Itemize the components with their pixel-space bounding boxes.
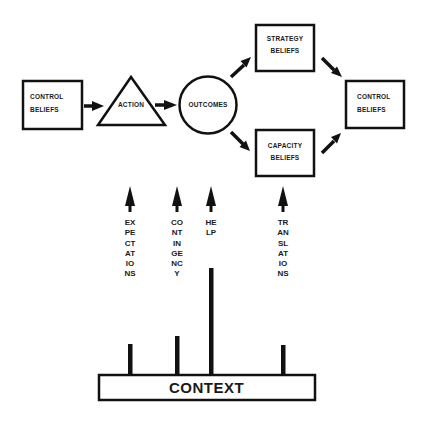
arrow-contingency (172, 186, 182, 375)
outcomes-label: OUTCOMES (182, 99, 234, 111)
arrow-action-to-outcomes (155, 100, 177, 110)
diagram-canvas: CONTROL BELIEFS ACTION OUTCOMES STRATEGY… (0, 0, 425, 422)
arrow-expectations (125, 186, 135, 375)
arrow-translations (278, 186, 288, 375)
arrow-control-to-action (84, 101, 104, 111)
control-beliefs-right-line1: CONTROL (357, 91, 391, 103)
contingency-label: CONTINGENCY (171, 218, 183, 280)
capacity-beliefs-line1: CAPACITY (256, 140, 314, 152)
diagram-shapes (0, 0, 425, 422)
context-label: CONTEXT (98, 374, 315, 400)
help-label: HELP (205, 218, 217, 239)
action-label: ACTION (110, 99, 152, 111)
control-beliefs-left-line2: BELIEFS (30, 104, 59, 116)
translations-label: TRANSLATIONS (277, 218, 289, 280)
strategy-beliefs-line1: STRATEGY (256, 33, 314, 45)
arrow-help (206, 186, 216, 375)
capacity-beliefs-line2: BELIEFS (256, 152, 314, 164)
control-beliefs-right-line2: BELIEFS (357, 104, 386, 116)
control-beliefs-left-line1: CONTROL (30, 91, 64, 103)
arrow-capacity-to-control (322, 133, 341, 153)
strategy-beliefs-line2: BELIEFS (256, 45, 314, 57)
expectations-label: EXPECTATIONS (124, 218, 136, 280)
arrow-outcomes-to-strategy (231, 57, 251, 77)
arrow-strategy-to-control (322, 58, 342, 77)
arrow-outcomes-to-capacity (231, 132, 250, 151)
